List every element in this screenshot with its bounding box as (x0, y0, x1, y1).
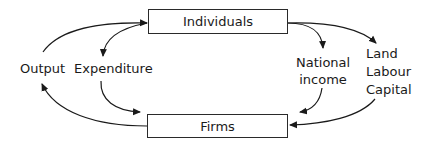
expenditure-label: Expenditure (74, 60, 153, 77)
factor-labour: Labour (366, 63, 412, 81)
arrow-individuals-to-national-income (288, 23, 323, 48)
arrow-individuals-to-factors (288, 23, 376, 43)
factor-capital: Capital (366, 81, 412, 99)
individuals-box: Individuals (148, 9, 288, 34)
factor-land: Land (366, 45, 412, 63)
national-income-line1: National (296, 54, 350, 71)
arrow-firms-to-output (42, 84, 147, 126)
factors-of-production-label: Land Labour Capital (366, 45, 412, 99)
arrow-national-income-to-firms (300, 88, 322, 112)
output-label: Output (20, 60, 65, 77)
firms-box: Firms (147, 114, 288, 138)
arrow-expenditure-to-firms (101, 81, 140, 112)
arrow-individuals-to-expenditure (103, 23, 147, 56)
national-income-line2: income (296, 71, 350, 88)
individuals-label: Individuals (183, 14, 253, 29)
firms-label: Firms (200, 119, 235, 134)
national-income-label: National income (296, 54, 350, 88)
